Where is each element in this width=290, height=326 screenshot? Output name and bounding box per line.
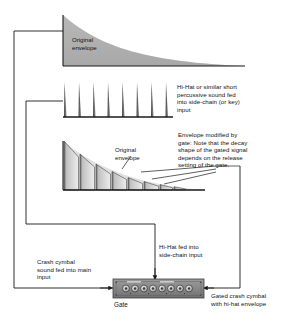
diagram-page: Original envelope Hi-Hat or similar shor… xyxy=(0,0,290,326)
gate-release-annotation: Envelope modified by gate: Note that the… xyxy=(178,131,288,169)
gate-device-label: Gate xyxy=(114,301,128,308)
original-envelope-label-gated: Original envelope xyxy=(115,146,140,161)
hihat-sidechain-annotation: Hi-Hat or similar short percussive sound… xyxy=(177,83,285,113)
original-envelope-label-top: Original envelope xyxy=(72,36,97,51)
gate-output-signal-path xyxy=(203,166,240,288)
sidechain-input-annotation: Hi-Hat fed into side-chain input xyxy=(159,243,254,258)
hihat-pulse-train-plot xyxy=(63,82,173,117)
main-input-annotation: Crash cymbal sound fed into main input xyxy=(37,258,132,281)
gate-output-annotation: Gated crash cymbal with hi-hat envelope xyxy=(211,292,290,307)
gate-device[interactable] xyxy=(113,279,204,298)
hihat-pulses xyxy=(64,82,168,117)
